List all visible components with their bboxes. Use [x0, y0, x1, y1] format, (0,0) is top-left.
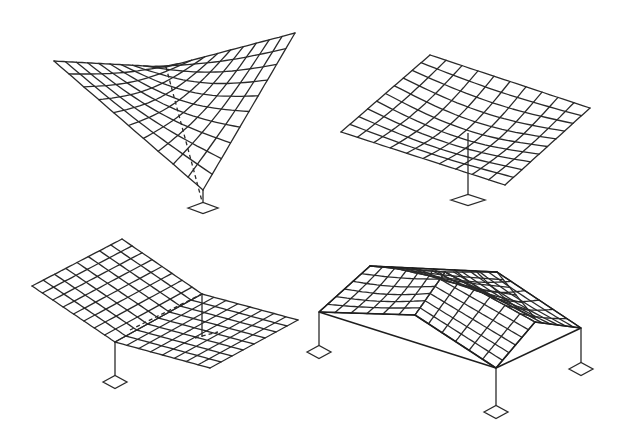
- grid-line: [88, 63, 231, 143]
- roof-edge-line: [496, 322, 535, 368]
- shell-surface-grid: [32, 239, 202, 342]
- footing-diamond-icon: [103, 376, 127, 389]
- grid-line: [368, 109, 531, 162]
- grid-line: [155, 49, 286, 67]
- grid-line: [54, 61, 203, 190]
- inverted-umbrella-diagram: [54, 33, 295, 214]
- footing-diamond-icon: [188, 203, 218, 214]
- footing-diamond-icon: [307, 346, 331, 359]
- roof-edge-line: [415, 315, 496, 368]
- folded-hypar-diagram: [32, 239, 298, 389]
- shell-surface-grid: [115, 294, 298, 368]
- grid-line: [430, 55, 590, 108]
- grid-line: [394, 86, 556, 139]
- flat-hypar-umbrella-diagram: [341, 55, 590, 206]
- four-column-hypar-roof-diagram: [307, 266, 593, 419]
- footing-diamond-icon: [451, 195, 485, 206]
- grid-line: [425, 301, 509, 353]
- grid-line: [100, 251, 181, 306]
- grid-line: [122, 239, 202, 294]
- structural-diagrams-canvas: [0, 0, 626, 435]
- grid-line: [111, 245, 191, 300]
- grid-line: [341, 132, 505, 185]
- footing-diamond-icon: [569, 363, 593, 376]
- shell-surface-grid: [341, 55, 590, 185]
- hidden-edge-dashed-line: [166, 67, 203, 205]
- grid-line: [77, 263, 159, 319]
- grid-line: [55, 274, 137, 330]
- grid-line: [350, 124, 514, 177]
- grid-line: [66, 268, 148, 324]
- shell-surface-grid: [445, 272, 581, 328]
- shell-surface-grid: [54, 33, 295, 190]
- grid-line: [359, 117, 522, 170]
- grid-line: [76, 62, 221, 158]
- grid-line: [43, 280, 126, 336]
- grid-line: [32, 286, 115, 342]
- grid-line: [420, 308, 503, 361]
- roof-edge-line: [496, 328, 581, 368]
- footing-diamond-icon: [484, 406, 508, 419]
- grid-line: [357, 60, 446, 137]
- grid-line: [88, 257, 169, 312]
